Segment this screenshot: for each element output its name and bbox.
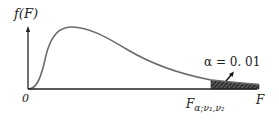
critical-value-label: Fα;ν₁,ν₂ [186,97,224,111]
origin-label: 0 [22,92,29,105]
critical-value-subscript: α;ν₁,ν₂ [194,103,224,113]
y-axis-arrow-icon [26,26,30,32]
x-axis-label: F [256,93,264,107]
y-axis-label: f(F) [14,6,38,21]
tail-annotation: α = 0. 01 [204,55,260,69]
